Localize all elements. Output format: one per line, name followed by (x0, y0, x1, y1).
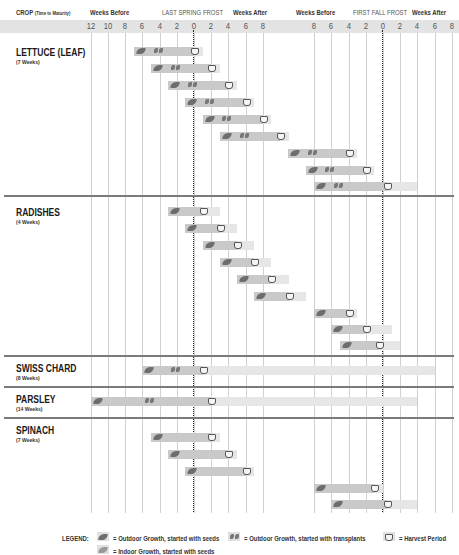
planting-bar (203, 115, 272, 124)
axis-tick-label: 2 (394, 21, 406, 31)
transplant-icon (145, 398, 155, 404)
indoor-seed-icon (98, 547, 108, 553)
planting-bar (91, 397, 418, 406)
harvest-basket-icon (251, 259, 259, 266)
harvest-basket-icon (200, 367, 208, 374)
planting-bar (237, 275, 289, 284)
harvest-basket-icon (243, 99, 251, 106)
planting-bar (151, 64, 220, 73)
harvest-basket-icon (243, 468, 251, 475)
harvest-basket-icon (384, 183, 392, 190)
axis-tick-label: 4 (411, 21, 423, 31)
grid-line (400, 33, 401, 513)
planting-bar (331, 325, 391, 334)
grid-line (383, 33, 384, 513)
planting-bar (168, 450, 237, 459)
axis-tick-label: 4 (343, 21, 355, 31)
crop-column-header: CROP (Time to Maturity) (16, 9, 70, 16)
planting-bar (314, 182, 417, 191)
axis-tick-label: 0 (188, 21, 200, 31)
grid-line (331, 33, 332, 513)
planting-bar (314, 484, 383, 493)
planting-bar (288, 149, 357, 158)
legend-swatch-transplant (228, 532, 240, 541)
grid-line (125, 33, 126, 513)
grid-line (452, 33, 453, 513)
transplant-icon (171, 65, 181, 71)
axis-tick-label: 8 (119, 21, 131, 31)
grid-line (366, 33, 367, 513)
axis-tick-label: 8 (308, 21, 320, 31)
harvest-basket-icon (225, 82, 233, 89)
crop-label-parsley: PARSLEY(14 Weeks) (16, 394, 56, 412)
spring-weeks-before-label: Weeks Before (90, 9, 129, 16)
legend-label-outdoor-seed: = Outdoor Growth, started with seeds (113, 535, 219, 542)
planting-bar (185, 224, 237, 233)
section-divider (4, 386, 454, 388)
grid-line (435, 33, 436, 513)
axis-tick-label: 0 (377, 21, 389, 31)
crop-label-radishes: RADISHES(4 Weeks) (16, 207, 60, 225)
harvest-basket-icon (363, 326, 371, 333)
transplant-icon (334, 183, 344, 189)
planting-bar (168, 81, 237, 90)
harvest-basket-icon (260, 116, 268, 123)
axis-tick-label: 4 (222, 21, 234, 31)
planting-bar (331, 500, 417, 509)
harvest-basket-icon (384, 501, 392, 508)
transplant-icon (240, 133, 250, 139)
harvest-basket-icon (371, 485, 379, 492)
planting-bar (254, 292, 306, 301)
legend-title: LEGEND: (62, 535, 89, 542)
transplant-icon (230, 534, 240, 540)
axis-tick-label: 6 (136, 21, 148, 31)
grid-line (349, 33, 350, 513)
harvest-basket-icon (234, 242, 242, 249)
axis-tick-label: 2 (171, 21, 183, 31)
planting-bar (306, 166, 375, 175)
grid-line (142, 33, 143, 513)
section-divider (4, 355, 454, 357)
legend-swatch-indoor-seed (97, 545, 109, 554)
harvest-basket-icon (208, 398, 216, 405)
crop-label-lettuce: LETTUCE (LEAF)(7 Weeks) (16, 47, 85, 65)
outdoor-seed-icon (98, 534, 108, 540)
axis-tick-label: 8 (257, 21, 269, 31)
axis-tick-label: 10 (102, 21, 114, 31)
transplant-icon (205, 99, 215, 105)
harvest-basket-icon (277, 133, 285, 140)
transplant-icon (188, 82, 198, 88)
planting-bar (142, 366, 434, 375)
last-spring-frost-label: LAST SPRING FROST (162, 9, 223, 16)
harvest-basket-icon (346, 310, 354, 317)
spring-weeks-after-label: Weeks After (233, 9, 267, 16)
planting-bar (220, 258, 272, 267)
harvest-basket-icon (286, 293, 294, 300)
harvest-basket-icon (385, 534, 393, 541)
crop-label-spinach: SPINACH(7 Weeks) (16, 425, 54, 443)
transplant-icon (222, 116, 232, 122)
harvest-period (203, 366, 435, 375)
axis-tick-label: 2 (360, 21, 372, 31)
harvest-basket-icon (200, 208, 208, 215)
axis-tick-label: 6 (325, 21, 337, 31)
planting-bar (185, 467, 254, 476)
transplant-icon (171, 367, 181, 373)
axis-tick-label: 2 (205, 21, 217, 31)
planting-bar (314, 309, 357, 318)
harvest-basket-icon (217, 225, 225, 232)
grid-line (314, 33, 315, 513)
legend-swatch-harvest (383, 532, 395, 541)
axis-tick-label: 6 (240, 21, 252, 31)
planting-bar (134, 47, 203, 56)
first-fall-frost-label: FIRST FALL FROST (353, 9, 407, 16)
legend-label-transplant: = Outdoor Growth, started with transplan… (244, 535, 365, 542)
section-divider (4, 195, 454, 197)
harvest-basket-icon (208, 65, 216, 72)
grid-line (263, 33, 264, 513)
grid-line (108, 33, 109, 513)
legend-label-harvest: = Harvest Period (399, 535, 446, 542)
section-divider (4, 417, 454, 419)
transplant-icon (308, 150, 318, 156)
harvest-basket-icon (376, 342, 384, 349)
